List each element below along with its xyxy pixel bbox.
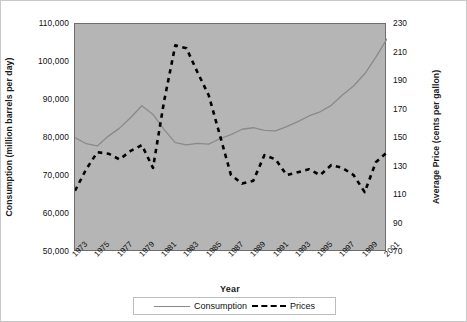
chart-legend: Consumption Prices — [133, 297, 336, 315]
y-axis-right-tick-150: 150 — [393, 133, 419, 141]
y-axis-right-tick-230: 230 — [393, 19, 419, 27]
plot-area — [74, 23, 386, 251]
y-axis-left-tick-80000: 80,000 — [3, 133, 69, 141]
solid-line-swatch-icon — [154, 306, 190, 307]
y-axis-left-tick-100000: 100,000 — [3, 57, 69, 65]
legend-label-prices: Prices — [290, 302, 315, 311]
y-axis-left-tick-60000: 60,000 — [3, 209, 69, 217]
y-axis-left-tick-50000: 50,000 — [3, 247, 69, 255]
y-axis-right-tick-110: 110 — [393, 190, 419, 198]
y-axis-right: 7090110130150170190210230 Average Price … — [386, 1, 467, 322]
series-line-prices — [75, 45, 387, 192]
y-axis-right-tick-130: 130 — [393, 162, 419, 170]
plot-svg — [75, 24, 387, 252]
legend-item-consumption: Consumption — [154, 302, 247, 311]
x-axis-title: Year — [74, 284, 386, 294]
legend-label-consumption: Consumption — [194, 302, 247, 311]
series-line-consumption — [75, 39, 387, 146]
y-axis-right-tick-90: 90 — [393, 219, 419, 227]
x-axis-ticklabels: 1973197519771979198119831985198719891991… — [74, 251, 386, 285]
y-axis-left-tick-110000: 110,000 — [3, 19, 69, 27]
legend-item-prices: Prices — [252, 302, 315, 311]
y-axis-right-tick-210: 210 — [393, 48, 419, 56]
y-axis-right-tick-190: 190 — [393, 76, 419, 84]
dashed-line-swatch-icon — [252, 305, 286, 307]
series-layer — [75, 39, 387, 192]
y-axis-right-tick-170: 170 — [393, 105, 419, 113]
y-axis-right-title-text: Average Price (cents per gallon) — [431, 70, 441, 204]
y-axis-right-title: Average Price (cents per gallon) — [430, 23, 442, 251]
y-axis-left-tick-90000: 90,000 — [3, 95, 69, 103]
chart-figure: Consumption (million barrels per day) 50… — [0, 0, 467, 322]
y-axis-left: Consumption (million barrels per day) 50… — [1, 1, 69, 322]
y-axis-left-tick-70000: 70,000 — [3, 171, 69, 179]
